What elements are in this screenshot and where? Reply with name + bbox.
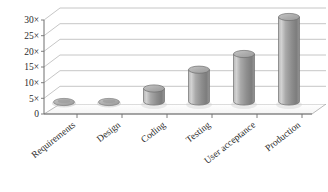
y-tick-label: 20× bbox=[24, 47, 39, 57]
x-category-label-production: Production bbox=[263, 120, 302, 154]
x-category-label-coding: Coding bbox=[139, 120, 167, 145]
x-axis bbox=[44, 114, 312, 118]
y-tick-label: 0 bbox=[34, 109, 39, 119]
y-tick-label: 10× bbox=[24, 78, 39, 88]
bar-testing bbox=[186, 66, 212, 109]
y-tick-label: 30× bbox=[24, 15, 39, 25]
y-axis bbox=[41, 20, 44, 114]
bar-user-acceptance bbox=[231, 50, 257, 108]
cylinder-bar-chart: 30× 25× 20× 15× 10× 5× 0 bbox=[0, 0, 328, 192]
y-tick-labels: 30× 25× 20× 15× 10× 5× 0 bbox=[24, 15, 39, 119]
x-category-labels: Requirements Design Coding Testing User … bbox=[29, 120, 302, 166]
y-tick-label: 15× bbox=[24, 62, 39, 72]
chart-canvas: 30× 25× 20× 15× 10× 5× 0 bbox=[0, 0, 328, 192]
x-category-label-testing: Testing bbox=[184, 120, 212, 145]
x-category-label-design: Design bbox=[95, 120, 123, 145]
x-category-label-requirements: Requirements bbox=[29, 120, 77, 161]
y-tick-label: 5× bbox=[29, 94, 39, 104]
bar-requirements bbox=[52, 98, 76, 107]
bar-coding bbox=[141, 85, 167, 109]
y-tick-label: 25× bbox=[24, 31, 39, 41]
bar-design bbox=[97, 98, 121, 107]
bar-production bbox=[276, 13, 302, 108]
